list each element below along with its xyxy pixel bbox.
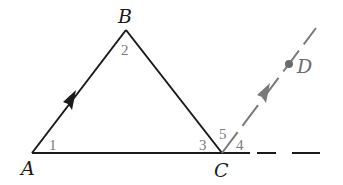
angle-3: 3 xyxy=(199,137,207,153)
triangle-diagram: B A C D 1 2 3 5 4 xyxy=(0,0,343,185)
label-b: B xyxy=(117,5,132,27)
ray-cd xyxy=(222,28,316,153)
parallel-arrow-icon-ab xyxy=(63,90,76,110)
segment-ab xyxy=(32,30,126,153)
label-a: A xyxy=(19,157,35,179)
label-d: D xyxy=(296,55,312,77)
angle-4: 4 xyxy=(236,137,244,153)
label-c: C xyxy=(214,159,229,181)
angle-5: 5 xyxy=(219,126,227,142)
segment-bc xyxy=(126,30,222,153)
angle-1: 1 xyxy=(49,137,57,153)
point-d-dot xyxy=(285,60,293,68)
angle-2: 2 xyxy=(121,42,129,58)
